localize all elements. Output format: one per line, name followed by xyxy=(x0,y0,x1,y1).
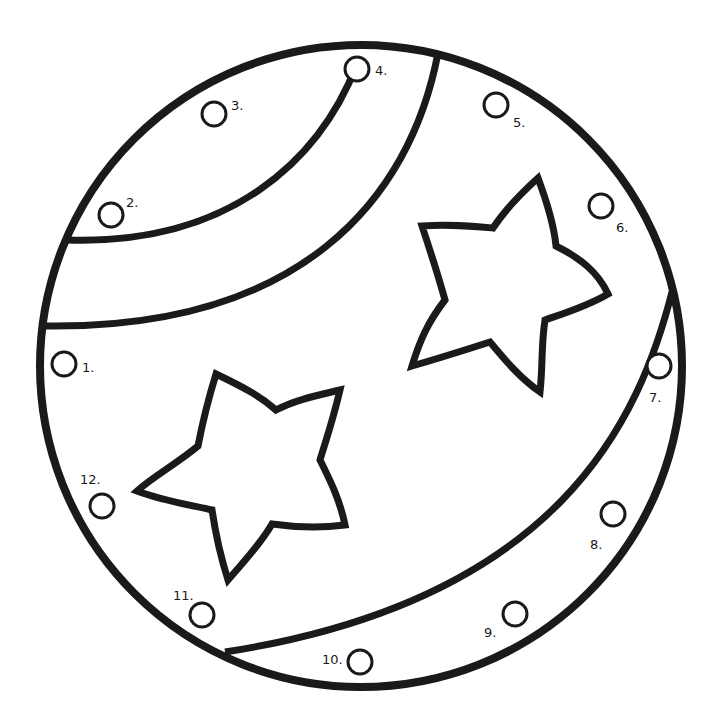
dot-label: 11. xyxy=(173,588,194,603)
dot-label: 12. xyxy=(80,472,101,487)
dot-7[interactable]: 7. xyxy=(647,354,671,405)
dot-4[interactable]: 4. xyxy=(345,57,387,81)
dot-label: 9. xyxy=(484,625,496,640)
dot-to-dot-worksheet: 1. 2. 3. 4. 5. 6. 7. 8. 9. 10. 11. 12. xyxy=(0,0,720,722)
dot-label: 5. xyxy=(513,115,525,130)
dot-1[interactable]: 1. xyxy=(52,352,94,376)
dot-label: 2. xyxy=(126,195,138,210)
dot-label: 7. xyxy=(649,390,661,405)
dot-5[interactable]: 5. xyxy=(484,93,525,130)
dot-label: 6. xyxy=(616,220,628,235)
dot-12[interactable]: 12. xyxy=(80,472,114,518)
dot-10[interactable]: 10. xyxy=(322,650,372,674)
dot-8[interactable]: 8. xyxy=(590,502,625,552)
dot-11[interactable]: 11. xyxy=(173,588,214,627)
ball-outline xyxy=(40,45,682,687)
star-upper-right xyxy=(412,178,608,392)
dot-label: 4. xyxy=(375,63,387,78)
dot-label: 10. xyxy=(322,652,343,667)
ball-stripe-bottom xyxy=(225,288,673,652)
dot-3[interactable]: 3. xyxy=(202,98,243,126)
ball-stripe-outer-top xyxy=(44,53,438,326)
star-lower-left xyxy=(137,374,345,580)
dot-label: 8. xyxy=(590,537,602,552)
dot-2[interactable]: 2. xyxy=(99,195,138,227)
dot-9[interactable]: 9. xyxy=(484,602,527,640)
dot-label: 1. xyxy=(82,360,94,375)
dot-6[interactable]: 6. xyxy=(589,194,628,235)
dot-label: 3. xyxy=(231,98,243,113)
